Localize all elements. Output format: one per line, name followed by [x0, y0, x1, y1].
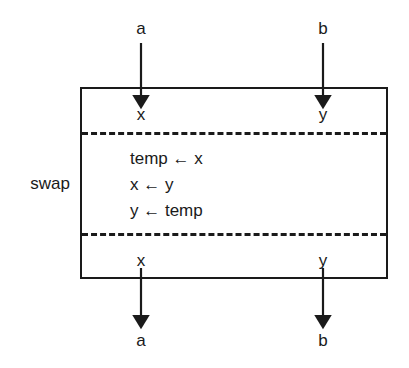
- output-port-x: x: [126, 252, 156, 269]
- output-label-a: a: [121, 332, 161, 349]
- input-port-y: y: [308, 106, 338, 123]
- input-label-b: b: [303, 20, 343, 37]
- swap-module-diagram: a b x y swap temp ← x x ← y y ← temp x y…: [0, 0, 409, 368]
- output-port-y: y: [308, 252, 338, 269]
- input-label-a: a: [121, 20, 161, 37]
- statement-line: temp ← x: [130, 146, 330, 172]
- statement-line: x ← y: [130, 172, 330, 198]
- output-label-b: b: [303, 332, 343, 349]
- dashed-separator-top: [82, 132, 386, 135]
- statement-list: temp ← x x ← y y ← temp: [130, 146, 330, 224]
- input-port-x: x: [126, 106, 156, 123]
- dashed-separator-bottom: [82, 233, 386, 236]
- module-name-label: swap: [8, 175, 70, 192]
- statement-line: y ← temp: [130, 198, 330, 224]
